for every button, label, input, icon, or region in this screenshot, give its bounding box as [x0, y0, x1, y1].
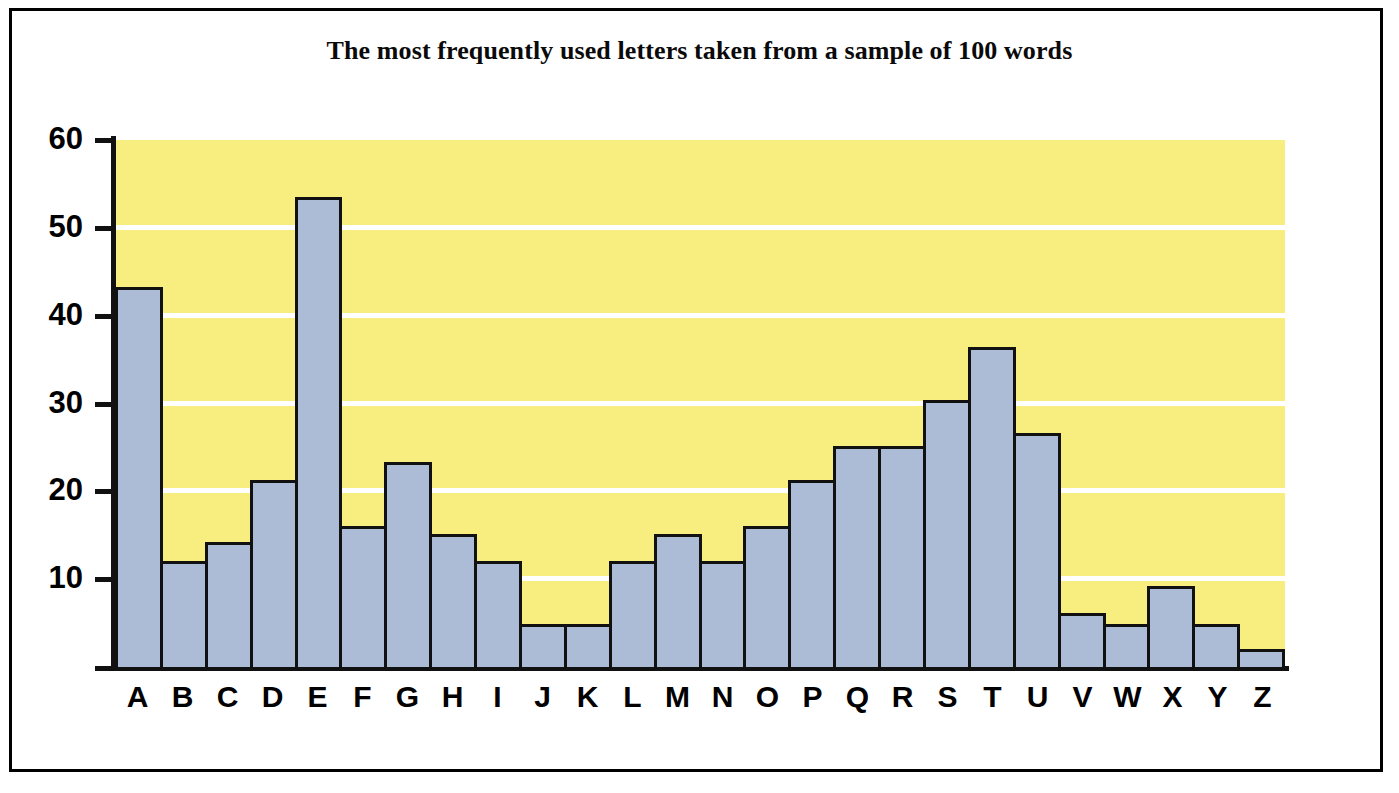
x-tick-label-u: U — [1015, 680, 1060, 713]
x-tick-label-r: R — [880, 680, 925, 713]
x-tick-label-z: Z — [1240, 680, 1285, 713]
bar-u — [1013, 433, 1061, 667]
bar-d — [250, 480, 298, 667]
bar-l — [609, 561, 657, 667]
bar-w — [1103, 624, 1151, 667]
chart-title: The most frequently used letters taken f… — [0, 36, 1399, 66]
y-tick-label: 20 — [13, 474, 83, 505]
plot-area — [115, 140, 1285, 667]
bar-j — [519, 624, 567, 667]
x-tick-label-w: W — [1105, 680, 1150, 713]
bar-y — [1192, 624, 1240, 667]
bar-o — [743, 526, 791, 667]
bar-k — [564, 624, 612, 667]
y-tick — [95, 138, 116, 143]
x-tick-label-h: H — [430, 680, 475, 713]
bar-m — [654, 534, 702, 668]
bar-r — [878, 446, 926, 667]
y-tick — [95, 577, 116, 582]
y-tick-label: 10 — [13, 562, 83, 593]
x-tick-label-a: A — [115, 680, 160, 713]
y-tick — [95, 226, 116, 231]
x-tick-label-p: P — [790, 680, 835, 713]
y-tick-label: 50 — [13, 211, 83, 242]
y-tick — [95, 489, 116, 494]
x-tick-label-i: I — [475, 680, 520, 713]
x-tick-label-y: Y — [1195, 680, 1240, 713]
x-tick-label-l: L — [610, 680, 655, 713]
bar-series — [115, 140, 1285, 667]
x-tick-label-n: N — [700, 680, 745, 713]
x-tick-label-f: F — [340, 680, 385, 713]
x-tick-label-k: K — [565, 680, 610, 713]
y-tick — [95, 314, 116, 319]
bar-h — [429, 534, 477, 668]
x-tick-label-t: T — [970, 680, 1015, 713]
y-tick — [95, 402, 116, 407]
y-tick-label: 60 — [13, 123, 83, 154]
x-tick-label-v: V — [1060, 680, 1105, 713]
bar-v — [1058, 613, 1106, 667]
x-tick-label-d: D — [250, 680, 295, 713]
bar-e — [295, 197, 343, 667]
bar-n — [699, 561, 747, 667]
bar-s — [923, 400, 971, 667]
bar-p — [788, 480, 836, 667]
x-tick-label-o: O — [745, 680, 790, 713]
x-tick-label-b: B — [160, 680, 205, 713]
x-tick-label-j: J — [520, 680, 565, 713]
x-tick-label-q: Q — [835, 680, 880, 713]
bar-i — [474, 561, 522, 667]
x-tick-label-x: X — [1150, 680, 1195, 713]
x-axis-labels: ABCDEFGHIJKLMNOPQRSTUVWXYZ — [115, 680, 1285, 713]
x-tick-label-c: C — [205, 680, 250, 713]
bar-z — [1237, 649, 1285, 667]
bar-g — [384, 462, 432, 667]
y-tick-label: 30 — [13, 387, 83, 418]
x-tick-label-s: S — [925, 680, 970, 713]
y-tick-label: 40 — [13, 299, 83, 330]
bar-a — [115, 287, 163, 667]
x-tick-label-g: G — [385, 680, 430, 713]
chart-page: The most frequently used letters taken f… — [0, 0, 1399, 793]
bar-q — [833, 446, 881, 667]
bar-t — [968, 347, 1016, 667]
bar-x — [1147, 586, 1195, 667]
x-tick-label-e: E — [295, 680, 340, 713]
bar-c — [205, 542, 253, 667]
x-tick-label-m: M — [655, 680, 700, 713]
bar-b — [160, 561, 208, 667]
bar-f — [339, 526, 387, 667]
